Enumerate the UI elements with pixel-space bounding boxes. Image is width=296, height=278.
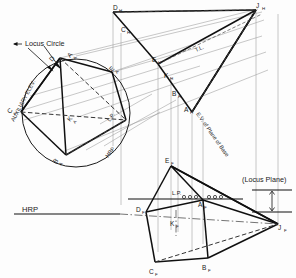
locus-plane-short-front-note: L.P. (172, 190, 182, 196)
top-view-object-lines (113, 10, 256, 112)
drawing-sheet: Locus Circle AUXILIARY ELEV. (Locus Plan… (0, 0, 296, 278)
label-D_H: D (113, 4, 118, 11)
label-A_F-sub: F (204, 205, 207, 210)
label-J_F-sub: F (284, 228, 287, 233)
label-K_F: K (170, 220, 175, 227)
label-C_F-sub: F (155, 272, 158, 277)
label-D_F-sub: F (142, 210, 145, 215)
hrp-upper-note: HRP (104, 145, 116, 158)
label-A_H-sub: H (190, 110, 193, 115)
label-A_H: A (184, 106, 189, 113)
label-J_H: J (256, 2, 259, 9)
dimension-arrow (270, 191, 275, 211)
locus-plane-note: (Locus Plane) (242, 175, 286, 184)
label-E_H-sub: H (158, 60, 161, 65)
label-K_A-sub: A (72, 119, 78, 125)
label-K_H: K (164, 72, 169, 79)
label-A_F: A (198, 201, 203, 208)
label-C_H-sub: H (127, 30, 130, 35)
lp-tick-marks (182, 195, 222, 198)
label-C_F: C (149, 268, 154, 275)
locus-circle-note: Locus Circle (25, 39, 65, 48)
label-B_H-sub: H (178, 94, 181, 99)
label-E_F-sub: F (171, 161, 174, 166)
descriptive-geometry-drawing: Locus Circle AUXILIARY ELEV. (Locus Plan… (0, 0, 296, 278)
label-J_H-sub: H (262, 6, 265, 11)
ev-plane-of-base-note: E.V. of Plane of Base (195, 111, 230, 158)
locus-plane-short-top-note: L.P. (106, 111, 116, 122)
label-E_F: E (165, 157, 170, 164)
label-C_H: C (121, 26, 126, 33)
hrp-lower-note: HRP (22, 205, 38, 214)
true-length-note: T.L. (194, 44, 205, 53)
label-K_H-sub: H (170, 76, 173, 81)
label-J_F: J (278, 224, 281, 231)
label-B_H: B (172, 90, 176, 97)
label-B_F-sub: F (208, 268, 211, 273)
label-D_H-sub: H (119, 8, 122, 13)
label-B_F: B (202, 264, 206, 271)
label-E_H: E (152, 56, 157, 63)
label-D_F: D (136, 206, 141, 213)
hidden-lines-fine (66, 10, 262, 155)
label-K_F-sub: F (176, 224, 179, 229)
